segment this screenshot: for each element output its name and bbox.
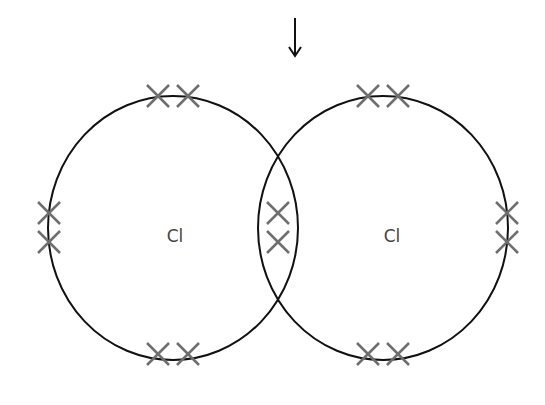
electron-cross-icon	[267, 231, 289, 253]
electron-crosses	[38, 85, 518, 365]
down-arrow-icon	[289, 18, 301, 56]
electron-cross-icon	[177, 343, 199, 365]
electron-cross-icon	[387, 343, 409, 365]
cl2-bonding-diagram: Cl Cl	[0, 0, 545, 405]
atom-label-left: Cl	[167, 226, 184, 246]
electron-cross-icon	[267, 202, 289, 224]
atom-shells	[48, 96, 508, 360]
electron-cross-icon	[357, 343, 379, 365]
atom-label-right: Cl	[384, 226, 401, 246]
electron-cross-icon	[147, 343, 169, 365]
